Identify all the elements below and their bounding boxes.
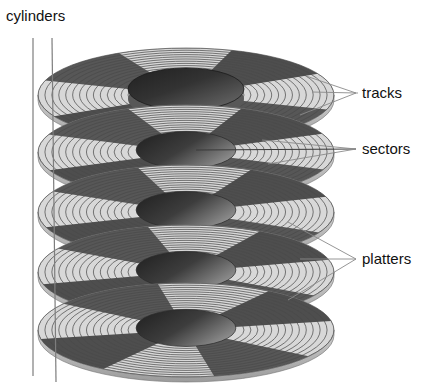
label-cylinders: cylinders (6, 7, 65, 24)
label-tracks: tracks (362, 84, 402, 101)
platter-stack (38, 48, 334, 382)
spindle-hole (136, 310, 236, 347)
disk-diagram-canvas: cylinders tracks sectors platters (0, 0, 438, 392)
disk-anatomy-figure: cylinders tracks sectors platters (0, 0, 438, 392)
label-platters: platters (362, 250, 411, 267)
spindle-hub (128, 68, 244, 110)
platter (38, 283, 334, 382)
spindle-hole (136, 192, 236, 229)
label-sectors: sectors (362, 140, 410, 157)
